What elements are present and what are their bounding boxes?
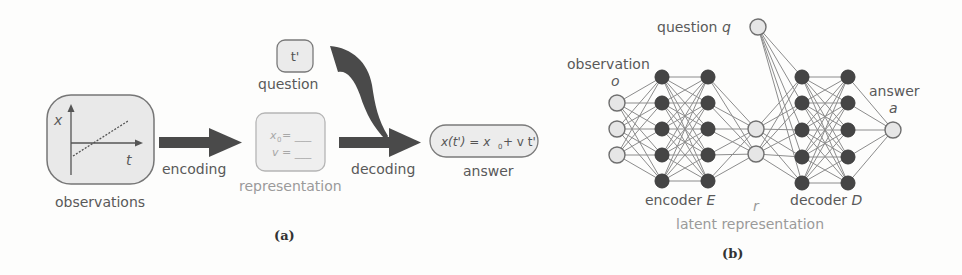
latent-symbol: r <box>753 198 760 214</box>
node-dec2 <box>841 123 855 137</box>
node-enc1 <box>655 148 669 162</box>
axis-x-label: t <box>126 152 132 168</box>
observations-box: x t <box>47 95 154 184</box>
node-enc2 <box>701 148 715 162</box>
node-dec1 <box>795 70 809 84</box>
caption-b: (b) <box>722 246 743 261</box>
node-dec1 <box>795 96 809 110</box>
node-enc2 <box>701 174 715 188</box>
answer-eq-part1: x(t') = x <box>440 135 491 149</box>
representation-box: x 0 = ___ v = ___ <box>256 113 325 171</box>
node-latent <box>748 146 764 162</box>
node-dec1 <box>795 176 809 190</box>
question-box: t' <box>277 40 313 72</box>
representation-label: representation <box>239 178 342 194</box>
rep-var-x: x <box>269 129 277 142</box>
node-enc2 <box>701 96 715 110</box>
answer-a-label: answer <box>869 83 920 99</box>
decoder-label: decoder D <box>790 192 862 208</box>
node-latent <box>748 121 764 137</box>
node-dec1 <box>795 150 809 164</box>
answer-symbol: a <box>889 100 898 116</box>
node-enc1 <box>655 70 669 84</box>
latent-representation-label: latent representation <box>676 216 824 232</box>
node-input <box>609 147 625 163</box>
node-dec2 <box>841 70 855 84</box>
node-enc2 <box>701 122 715 136</box>
node-dec2 <box>841 150 855 164</box>
node-enc1 <box>655 174 669 188</box>
observation-label: observation <box>567 56 650 72</box>
node-input <box>609 95 625 111</box>
encoding-arrow-icon <box>159 128 242 157</box>
answer-box: x(t') = x 0 + v t' <box>430 125 538 157</box>
panel-a: x t observations encoding x 0 = ___ v = … <box>47 40 538 243</box>
node-dec2 <box>841 176 855 190</box>
node-dec1 <box>795 123 809 137</box>
node-enc2 <box>701 70 715 84</box>
node-question <box>750 19 766 35</box>
question-value: t' <box>291 49 300 64</box>
question-label: question <box>258 76 318 92</box>
answer-eq-part2: + v t' <box>503 135 536 149</box>
rep-line2: v = ___ <box>272 146 312 159</box>
caption-a: (a) <box>274 228 295 243</box>
node-output <box>885 122 901 138</box>
answer-label: answer <box>463 163 514 179</box>
node-dec2 <box>841 96 855 110</box>
decoding-label: decoding <box>351 161 415 177</box>
rep-var-sub: 0 <box>277 136 281 144</box>
network-edge <box>617 77 662 155</box>
observation-symbol: o <box>611 73 620 89</box>
encoder-label: encoder E <box>645 192 715 208</box>
node-enc1 <box>655 96 669 110</box>
figure: x t observations encoding x 0 = ___ v = … <box>0 0 962 275</box>
node-input <box>609 121 625 137</box>
question-q-label: question q <box>657 19 731 35</box>
answer-eq-sub: 0 <box>498 143 502 151</box>
axis-y-label: x <box>53 112 63 128</box>
node-enc1 <box>655 122 669 136</box>
rep-line1: = ___ <box>282 129 312 142</box>
observations-label: observations <box>55 194 145 210</box>
curved-arrow-icon <box>330 46 388 140</box>
encoding-label: encoding <box>162 161 226 177</box>
panel-b: observation o question q answer a encode… <box>567 19 920 261</box>
